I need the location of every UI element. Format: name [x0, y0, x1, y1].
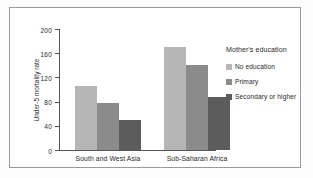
legend-item-label: Secondary or higher	[235, 93, 296, 100]
y-axis-tick: 80	[55, 102, 59, 103]
y-axis-tick-label: 0	[48, 147, 52, 154]
legend-items: No educationPrimarySecondary or higher	[226, 63, 308, 100]
legend-item[interactable]: Primary	[226, 78, 308, 85]
legend-swatch-icon	[226, 79, 232, 85]
bar	[97, 103, 119, 150]
y-axis-tick-label: 120	[41, 74, 52, 81]
legend-swatch-icon	[226, 94, 232, 100]
y-axis-tick-label: 160	[41, 50, 52, 57]
y-axis-tick-label: 40	[44, 123, 52, 130]
bar	[164, 47, 186, 150]
y-axis-tick: 200	[55, 29, 59, 30]
y-axis-title: Under-5 mortality rate	[32, 29, 42, 151]
x-axis-category-label: Sub-Saharan Africa	[152, 155, 242, 162]
y-axis-tick: 160	[55, 53, 59, 54]
plot-area: 04080120160200 South and West AsiaSub-Sa…	[59, 29, 216, 151]
y-axis-tick-label: 200	[41, 26, 52, 33]
x-axis-line	[59, 150, 216, 151]
y-axis-tick: 0	[55, 150, 59, 151]
y-axis-line	[59, 29, 60, 151]
legend-item[interactable]: Secondary or higher	[226, 93, 308, 100]
legend-swatch-icon	[226, 64, 232, 70]
y-axis-tick-label: 80	[44, 99, 52, 106]
legend: Mother's education No educationPrimarySe…	[226, 46, 308, 108]
x-axis-category-label: South and West Asia	[63, 155, 153, 162]
y-axis-tick: 40	[55, 126, 59, 127]
legend-item-label: Primary	[235, 78, 258, 85]
legend-item[interactable]: No education	[226, 63, 308, 70]
chart-figure: Under-5 mortality rate 04080120160200 So…	[0, 0, 313, 178]
legend-title: Mother's education	[226, 46, 308, 53]
bar	[75, 86, 97, 150]
bar	[119, 120, 141, 150]
chart-frame: Under-5 mortality rate 04080120160200 So…	[9, 7, 301, 168]
bar	[186, 65, 208, 150]
y-axis-tick: 120	[55, 77, 59, 78]
legend-item-label: No education	[235, 63, 275, 70]
